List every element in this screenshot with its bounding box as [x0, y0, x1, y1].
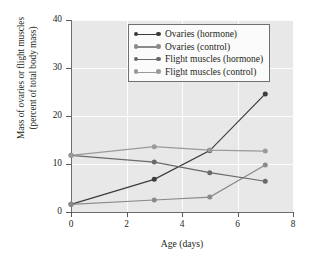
legend-swatch [133, 67, 161, 77]
x-axis-tick-label: 4 [172, 219, 192, 229]
x-axis-tick: 8 [293, 212, 294, 217]
y-axis-tick-label: 0 [57, 206, 62, 216]
plot-area: 010203040 02468 Ovaries (hormone)Ovaries… [71, 20, 293, 212]
legend-marker [134, 57, 139, 62]
legend-marker [156, 44, 161, 49]
series-marker [69, 202, 74, 207]
y-axis-title-line-2: (percent of total body mass) [27, 0, 39, 173]
x-axis-tick: 0 [71, 212, 72, 217]
series-marker [263, 162, 268, 167]
y-axis-tick-label: 10 [53, 158, 62, 168]
chart-figure: Mass of ovaries or flight muscles (perce… [0, 0, 313, 262]
y-axis-tick-label: 20 [53, 110, 62, 120]
series-marker [207, 148, 212, 153]
series-marker [263, 179, 268, 184]
legend-marker [134, 32, 139, 37]
series-line [71, 155, 265, 181]
series-marker [207, 195, 212, 200]
legend-swatch [133, 54, 161, 64]
series-marker [152, 160, 157, 165]
series-marker [152, 198, 157, 203]
y-axis-title-line-1: Mass of ovaries or flight muscles [15, 0, 27, 173]
legend-label: Flight muscles (control) [165, 67, 256, 77]
x-axis-tick-label: 2 [117, 219, 137, 229]
legend-item: Ovaries (control) [133, 41, 263, 54]
x-axis-tick-label: 8 [283, 219, 303, 229]
legend-item: Flight muscles (control) [133, 66, 263, 79]
x-axis-tick: 6 [238, 212, 239, 217]
x-axis-tick: 4 [182, 212, 183, 217]
legend-label: Flight muscles (hormone) [165, 54, 263, 64]
y-axis-tick-label: 30 [53, 62, 62, 72]
series-marker [207, 170, 212, 175]
series-marker [69, 153, 74, 158]
series-marker [263, 91, 268, 96]
series-line [71, 94, 265, 204]
y-axis-title: Mass of ovaries or flight muscles (perce… [15, 0, 49, 173]
legend-item: Flight muscles (hormone) [133, 53, 263, 66]
series-marker [152, 177, 157, 182]
legend-marker [156, 69, 161, 74]
legend-marker [156, 32, 161, 37]
x-axis-tick-label: 0 [61, 219, 81, 229]
legend-marker [134, 44, 139, 49]
legend-item: Ovaries (hormone) [133, 28, 263, 41]
series-line [71, 165, 265, 204]
legend-label: Ovaries (control) [165, 42, 230, 52]
legend-label: Ovaries (hormone) [165, 29, 237, 39]
y-axis-tick-label: 40 [53, 14, 62, 24]
legend-swatch [133, 42, 161, 52]
legend-swatch [133, 29, 161, 39]
series-marker [152, 144, 157, 149]
legend-marker [134, 69, 139, 74]
gridline-vertical [293, 20, 294, 212]
legend-marker [156, 57, 161, 62]
series-marker [263, 149, 268, 154]
x-axis-title: Age (days) [62, 238, 302, 249]
series-line [71, 147, 265, 156]
x-axis-tick-label: 6 [228, 219, 248, 229]
chart-legend: Ovaries (hormone)Ovaries (control)Flight… [128, 24, 270, 82]
x-axis-tick: 2 [127, 212, 128, 217]
